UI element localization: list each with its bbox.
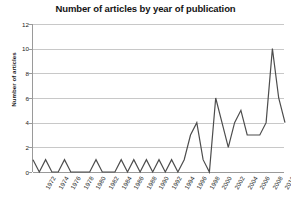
x-tick-label-1996: 1996 (195, 175, 208, 190)
x-tick-label-1992: 1992 (170, 175, 183, 190)
series-line-articles (33, 49, 285, 172)
y-tick-label-4: 4 (7, 119, 29, 126)
x-tick-label-2000: 2000 (220, 175, 233, 190)
x-tick-label-1998: 1998 (208, 175, 221, 190)
y-tick-label-6: 6 (7, 95, 29, 102)
x-tick-label-1976: 1976 (69, 175, 82, 190)
x-tick-label-2008: 2008 (271, 175, 284, 190)
x-tick-label-1974: 1974 (56, 175, 69, 190)
x-tick-label-2004: 2004 (245, 175, 258, 190)
plot-area (32, 24, 284, 172)
x-tick-label-1978: 1978 (82, 175, 95, 190)
x-tick-label-2010: 2010 (283, 175, 291, 190)
x-tick-label-1984: 1984 (119, 175, 132, 190)
chart-container: Number of articles by year of publicatio… (0, 0, 291, 217)
y-tick-label-10: 10 (7, 45, 29, 52)
y-tick-label-12: 12 (7, 21, 29, 28)
x-tick-label-1972: 1972 (44, 175, 57, 190)
x-tick-label-1994: 1994 (182, 175, 195, 190)
x-tick-label-2006: 2006 (258, 175, 271, 190)
chart-title: Number of articles by year of publicatio… (0, 2, 291, 15)
y-tick-label-0: 0 (7, 169, 29, 176)
y-axis-title: Number of articles (10, 43, 17, 117)
x-tick-label-1990: 1990 (157, 175, 170, 190)
y-tick-label-8: 8 (7, 70, 29, 77)
y-tick-label-2: 2 (7, 144, 29, 151)
x-tick-label-1980: 1980 (94, 175, 107, 190)
x-tick-label-1988: 1988 (145, 175, 158, 190)
x-tick-label-1986: 1986 (132, 175, 145, 190)
x-tick-label-2002: 2002 (233, 175, 246, 190)
series-line-chart (33, 24, 285, 172)
x-tick-label-1982: 1982 (107, 175, 120, 190)
x-axis-tick-labels: 1972197419761978198019821984198619881990… (32, 175, 284, 217)
y-tick-mark-0 (28, 172, 32, 173)
